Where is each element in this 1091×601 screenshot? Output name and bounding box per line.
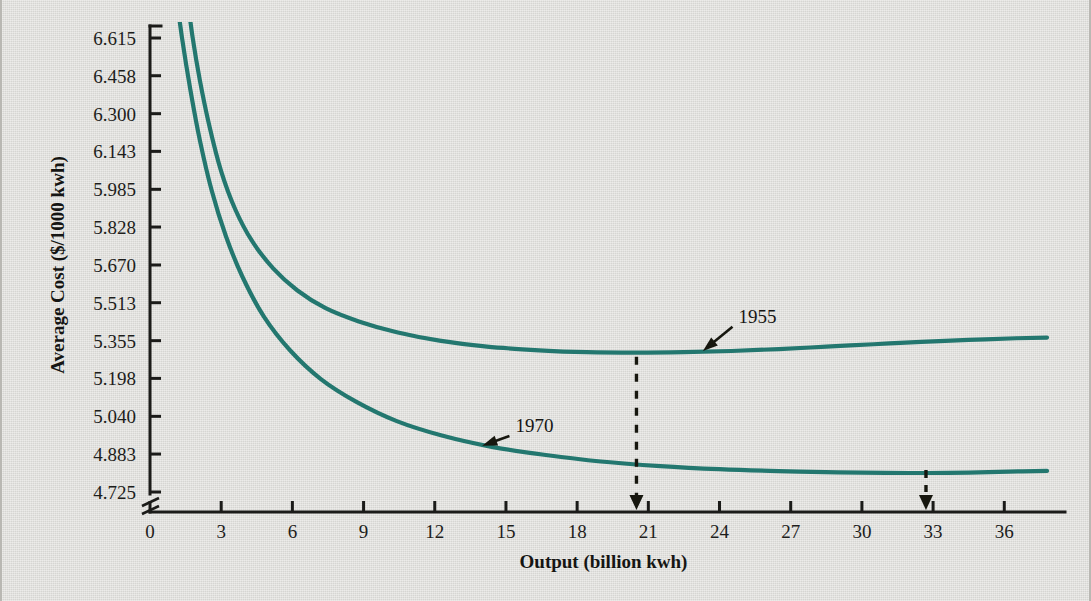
x-axis-title: Output (billion kwh) [520, 551, 688, 573]
y-tick-label: 6.615 [93, 28, 136, 49]
y-tick-label: 5.828 [93, 217, 136, 238]
x-tick-label: 21 [639, 521, 658, 542]
chart-canvas: 4.7254.8835.0405.1985.3555.5135.6705.828… [2, 0, 1091, 601]
x-tick-label: 18 [568, 521, 587, 542]
x-tick-label: 6 [288, 521, 298, 542]
x-tick-label: 36 [995, 521, 1014, 542]
x-tick-label: 30 [852, 521, 871, 542]
series-label-1970-arrowhead [482, 436, 498, 446]
y-axis-title: Average Cost ($/1000 kwh) [47, 156, 69, 374]
y-tick-label: 6.143 [93, 141, 136, 162]
series-label-1955: 1955 [739, 306, 777, 327]
x-tick-label: 24 [710, 521, 730, 542]
y-tick-label: 5.198 [93, 368, 136, 389]
figure-panel: 4.7254.8835.0405.1985.3555.5135.6705.828… [0, 0, 1091, 601]
y-tick-label: 5.513 [93, 293, 136, 314]
y-tick-label: 4.725 [93, 482, 136, 503]
y-tick-label: 6.300 [93, 104, 136, 125]
y-tick-label: 5.670 [93, 255, 136, 276]
x-tick-label: 3 [216, 521, 226, 542]
y-tick-label: 6.458 [93, 66, 136, 87]
series-label-1970: 1970 [515, 415, 553, 436]
y-tick-label: 4.883 [93, 444, 136, 465]
curve-1970 [176, 0, 1047, 473]
y-tick-label: 5.040 [93, 406, 136, 427]
minimum-marker-1970-arrowhead [919, 495, 933, 510]
y-tick-label: 5.985 [93, 179, 136, 200]
y-tick-label: 5.355 [93, 331, 136, 352]
minimum-marker-1955-arrowhead [629, 495, 643, 510]
x-tick-label: 33 [924, 521, 943, 542]
x-tick-label: 0 [145, 521, 155, 542]
x-tick-label: 27 [781, 521, 800, 542]
x-tick-label: 15 [496, 521, 515, 542]
series-label-1955-leader [711, 327, 732, 344]
x-tick-label: 9 [359, 521, 369, 542]
x-tick-label: 12 [425, 521, 444, 542]
curve-1955 [187, 0, 1047, 353]
